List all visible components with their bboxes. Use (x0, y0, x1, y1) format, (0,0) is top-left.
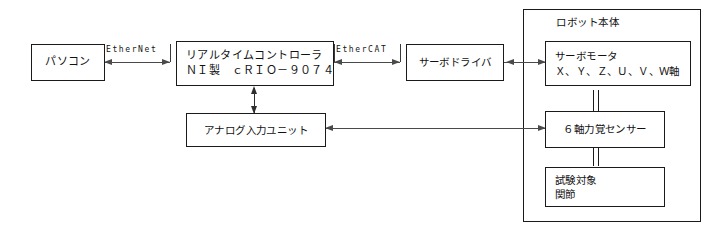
bus-label-ethercat: EtherCAT (335, 45, 388, 54)
link-servodriver-servomotor-arrowhead-left (506, 59, 514, 65)
node-force-sensor[interactable]: ６軸力覚センサー (545, 111, 665, 148)
node-realtime-controller[interactable]: リアルタイムコントローラ ＮＩ製 ｃＲＩＯ－９０７４ (176, 41, 334, 86)
system-block-diagram: ロボット本体 EtherNet EtherCAT パソコン リアルタイムコントロ… (0, 0, 726, 233)
node-pc[interactable]: パソコン (31, 44, 105, 81)
link-pc-controller-arrowhead-right (162, 59, 170, 65)
link-forcesensor-analogunit-arrowhead-left (325, 125, 333, 131)
link-controller-servodriver-tick-right (400, 44, 401, 62)
node-test-target-line2: 関節 (555, 187, 576, 201)
link-pc-controller-arrowhead-left (104, 59, 112, 65)
node-realtime-controller-line2: ＮＩ製 ｃＲＩＯ－９０７４ (186, 64, 334, 79)
link-controller-servodriver-arrowhead-left (334, 59, 342, 65)
node-servo-driver-label: サーボドライバ (419, 55, 492, 69)
node-servo-motor[interactable]: サーボモータ Ｘ、Ｙ、Ｚ、Ｕ、Ｖ、Ｗ軸 (545, 41, 691, 86)
mechlink-forcesensor-testtarget (593, 148, 599, 166)
link-controller-servodriver (334, 62, 400, 63)
node-test-target-line1: 試験対象 (555, 173, 597, 187)
node-servo-motor-line2: Ｘ、Ｙ、Ｚ、Ｕ、Ｖ、Ｗ軸 (555, 64, 680, 78)
bus-label-ethernet: EtherNet (105, 45, 158, 54)
mechlink-servomotor-forcesensor (593, 90, 599, 112)
node-analog-input-unit[interactable]: アナログ入力ユニット (186, 113, 326, 147)
link-forcesensor-analogunit (325, 128, 552, 129)
node-servo-motor-line1: サーボモータ (555, 49, 617, 63)
node-force-sensor-label: ６軸力覚センサー (563, 122, 646, 136)
node-analog-input-unit-label: アナログ入力ユニット (204, 123, 308, 137)
container-robot-body-title: ロボット本体 (556, 14, 619, 29)
link-controller-analogunit-arrowhead-up (251, 86, 257, 94)
link-pc-controller (104, 62, 170, 63)
node-realtime-controller-line1: リアルタイムコントローラ (186, 49, 323, 64)
link-controller-servodriver-arrowhead-right (392, 59, 400, 65)
node-pc-label: パソコン (45, 55, 91, 70)
link-pc-controller-tick-right (170, 44, 171, 62)
node-test-target[interactable]: 試験対象 関節 (545, 167, 665, 207)
node-servo-driver[interactable]: サーボドライバ (406, 44, 504, 81)
